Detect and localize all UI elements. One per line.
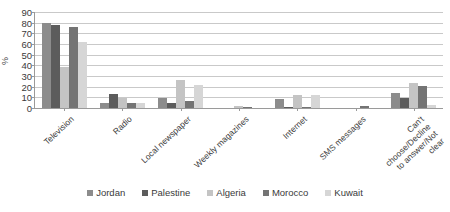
y-tick-mark: [32, 23, 35, 24]
y-tick-mark: [32, 87, 35, 88]
y-tick-mark: [32, 44, 35, 45]
y-tick-mark: [32, 33, 35, 34]
legend-item[interactable]: Morocco: [263, 188, 308, 198]
chart-legend: JordanPalestineAlgeriaMoroccoKuwait: [0, 188, 450, 198]
bar-morocco: [243, 107, 252, 108]
bar-group: [93, 12, 151, 108]
bar-jordan: [42, 23, 51, 108]
bar-group: [152, 12, 210, 108]
bar-jordan: [100, 103, 109, 108]
bar-kuwait: [427, 105, 436, 108]
y-tick-label: 80: [21, 18, 32, 27]
bar-kuwait: [78, 42, 87, 108]
x-axis-label: Weekly magazines: [192, 114, 251, 170]
y-tick-label: 60: [21, 40, 32, 49]
bar-algeria: [118, 98, 127, 108]
bar-group: [326, 12, 384, 108]
bar-algeria: [409, 83, 418, 108]
x-axis-label: Can't choose/Decline to answer/Not clear: [376, 114, 446, 183]
bar-kuwait: [311, 95, 320, 108]
x-axis-label: Local newspaper: [139, 114, 193, 165]
legend-item[interactable]: Palestine: [142, 188, 190, 198]
legend-swatch-icon: [87, 190, 93, 196]
bar-palestine: [167, 103, 176, 108]
bar-morocco: [127, 103, 136, 108]
y-tick-mark: [32, 65, 35, 66]
x-axis-label: SMS messages: [317, 114, 367, 162]
bar-group: [35, 12, 93, 108]
plot-area: [34, 12, 443, 109]
bar-algeria: [293, 95, 302, 108]
legend-swatch-icon: [263, 190, 269, 196]
bar-group: [268, 12, 326, 108]
y-tick-label: 50: [21, 50, 32, 59]
y-axis-tick-labels: 9080706050403020100: [10, 12, 32, 108]
bar-morocco: [360, 106, 369, 108]
bar-jordan: [158, 98, 167, 108]
y-tick-label: 30: [21, 72, 32, 81]
legend-swatch-icon: [207, 190, 213, 196]
bar-kuwait: [194, 85, 203, 108]
legend-label: Jordan: [96, 188, 125, 198]
legend-swatch-icon: [325, 190, 331, 196]
legend-item[interactable]: Jordan: [87, 188, 125, 198]
bar-groups: [35, 12, 443, 108]
y-tick-mark: [32, 97, 35, 98]
y-tick-label: 40: [21, 61, 32, 70]
bar-morocco: [418, 86, 427, 108]
y-tick-label: 90: [21, 8, 32, 17]
legend-item[interactable]: Algeria: [207, 188, 246, 198]
bar-jordan: [391, 93, 400, 108]
x-axis-label: Television: [42, 114, 76, 147]
legend-item[interactable]: Kuwait: [325, 188, 363, 198]
bar-palestine: [51, 25, 60, 108]
bar-palestine: [284, 107, 293, 108]
bar-morocco: [302, 107, 311, 108]
bar-palestine: [400, 98, 409, 108]
bar-group: [210, 12, 268, 108]
bar-chart: % 9080706050403020100 TelevisionRadioLoc…: [0, 0, 450, 212]
bar-jordan: [275, 99, 284, 108]
legend-label: Algeria: [216, 188, 246, 198]
legend-label: Kuwait: [334, 188, 363, 198]
x-axis-label: Radio: [111, 114, 134, 136]
y-tick-mark: [32, 55, 35, 56]
legend-swatch-icon: [142, 190, 148, 196]
bar-algeria: [176, 80, 185, 108]
y-tick-label: 70: [21, 29, 32, 38]
bar-group: [385, 12, 443, 108]
plot-wrapper: % 9080706050403020100 TelevisionRadioLoc…: [0, 0, 450, 118]
y-tick-label: 20: [21, 82, 32, 91]
y-tick-mark: [32, 76, 35, 77]
bar-morocco: [185, 101, 194, 108]
legend-label: Morocco: [272, 188, 308, 198]
y-tick-label: 10: [21, 93, 32, 102]
bar-morocco: [69, 27, 78, 108]
bar-palestine: [109, 94, 118, 108]
bar-kuwait: [136, 103, 145, 108]
x-axis-category-labels: TelevisionRadioLocal newspaperWeekly mag…: [34, 110, 442, 182]
y-axis-title: %: [0, 57, 10, 65]
y-tick-mark: [32, 12, 35, 13]
x-axis-label: Internet: [281, 114, 309, 141]
bar-algeria: [60, 67, 69, 108]
y-tick-mark: [32, 108, 35, 109]
legend-label: Palestine: [151, 188, 190, 198]
